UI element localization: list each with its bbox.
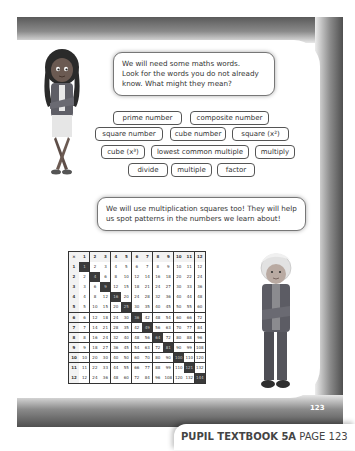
grid-cell: 28 <box>142 292 152 302</box>
page-frame-bottom <box>17 395 343 427</box>
grid-cell: 36 <box>195 282 205 292</box>
grid-cell: 12 <box>79 373 89 383</box>
grid-row-header: 3 <box>69 282 79 292</box>
grid-cell: 99 <box>163 363 173 373</box>
grid-column-header: 12 <box>195 252 205 262</box>
speech-bubble-multiplication-squares: We will use multiplication squares too! … <box>97 197 306 231</box>
grid-cell: 16 <box>153 272 163 282</box>
boy-character-illustration <box>250 250 300 398</box>
grid-cell: 8 <box>79 333 89 343</box>
grid-cell: 24 <box>90 373 100 383</box>
grid-column-header: 3 <box>100 252 110 262</box>
grid-square-number-cell: 1 <box>79 262 89 272</box>
grid-column-header: 10 <box>174 252 184 262</box>
grid-cell: 18 <box>90 343 100 353</box>
grid-row-header: 4 <box>69 292 79 302</box>
grid-cell: 12 <box>195 262 205 272</box>
grid-cell: 48 <box>195 292 205 302</box>
grid-cell: 132 <box>184 373 194 383</box>
grid-square-number-cell: 100 <box>174 353 184 363</box>
grid-cell: 7 <box>79 323 89 333</box>
vocab-chip-prime-number: prime number <box>113 111 182 125</box>
grid-column-header: 4 <box>111 252 121 262</box>
grid-cell: 90 <box>163 353 173 363</box>
grid-cell: 24 <box>132 292 142 302</box>
grid-cell: 88 <box>153 363 163 373</box>
grid-cell: 35 <box>121 323 131 333</box>
vocab-chip-lowest-common-multiple: lowest common multiple <box>151 145 249 159</box>
grid-column-header: 5 <box>121 252 131 262</box>
grid-row-header: 8 <box>69 333 79 343</box>
grid-cell: 3 <box>100 262 110 272</box>
grid-cell: 8 <box>111 272 121 282</box>
grid-cell: 2 <box>79 272 89 282</box>
grid-square-number-cell: 81 <box>163 343 173 353</box>
vocab-chip-factor: factor <box>217 163 255 177</box>
vocab-chip-cube-number: cube number <box>170 127 226 141</box>
grid-square-number-cell: 144 <box>195 373 205 383</box>
grid-cell: 70 <box>174 323 184 333</box>
grid-cell: 33 <box>100 363 110 373</box>
grid-cell: 12 <box>111 282 121 292</box>
grid-cell: 63 <box>142 343 152 353</box>
grid-cell: 16 <box>90 333 100 343</box>
grid-cell: 54 <box>163 313 173 323</box>
grid-cell: 18 <box>163 272 173 282</box>
vocab-chip-composite-number: composite number <box>190 111 269 125</box>
grid-corner-cell: × <box>69 252 79 262</box>
grid-column-header: 11 <box>184 252 194 262</box>
grid-cell: 108 <box>163 373 173 383</box>
grid-square-number-cell: 36 <box>132 313 142 323</box>
grid-cell: 120 <box>174 373 184 383</box>
grid-cell: 45 <box>121 343 131 353</box>
grid-cell: 5 <box>79 302 89 312</box>
grid-cell: 6 <box>79 313 89 323</box>
grid-cell: 10 <box>121 272 131 282</box>
grid-cell: 48 <box>111 373 121 383</box>
grid-cell: 2 <box>90 262 100 272</box>
grid-row-header: 6 <box>69 313 79 323</box>
speech-bubble-maths-words: We will need some maths words. Look for … <box>113 52 275 96</box>
grid-cell: 72 <box>153 343 163 353</box>
vocab-chip-square-number: square number <box>95 127 163 141</box>
grid-row-header: 12 <box>69 373 79 383</box>
grid-cell: 90 <box>174 343 184 353</box>
grid-cell: 44 <box>111 363 121 373</box>
grid-column-header: 9 <box>163 252 173 262</box>
grid-cell: 6 <box>132 262 142 272</box>
bubble-line: us spot patterns in the numbers we learn… <box>106 214 297 224</box>
grid-cell: 28 <box>111 323 121 333</box>
grid-cell: 10 <box>174 262 184 272</box>
grid-cell: 40 <box>111 353 121 363</box>
grid-cell: 6 <box>100 272 110 282</box>
grid-cell: 15 <box>100 302 110 312</box>
grid-cell: 45 <box>163 302 173 312</box>
grid-cell: 88 <box>184 333 194 343</box>
grid-cell: 36 <box>100 373 110 383</box>
grid-cell: 32 <box>153 292 163 302</box>
grid-column-header: 2 <box>90 252 100 262</box>
grid-cell: 27 <box>163 282 173 292</box>
grid-cell: 54 <box>132 343 142 353</box>
vocab-chip-square-x2: square (x²) <box>232 127 289 141</box>
grid-cell: 4 <box>111 262 121 272</box>
grid-cell: 56 <box>153 323 163 333</box>
grid-cell: 72 <box>132 373 142 383</box>
grid-cell: 12 <box>132 272 142 282</box>
grid-cell: 7 <box>142 262 152 272</box>
grid-column-header: 8 <box>153 252 163 262</box>
grid-cell: 24 <box>111 313 121 323</box>
grid-cell: 40 <box>121 333 131 343</box>
grid-cell: 42 <box>142 313 152 323</box>
grid-row-header: 11 <box>69 363 79 373</box>
grid-cell: 72 <box>163 333 173 343</box>
grid-cell: 48 <box>153 313 163 323</box>
grid-cell: 18 <box>100 313 110 323</box>
grid-cell: 10 <box>79 353 89 363</box>
grid-cell: 8 <box>153 262 163 272</box>
bubble-line: Look for the words you do not already <box>122 69 266 79</box>
grid-cell: 77 <box>184 323 194 333</box>
grid-cell: 80 <box>153 353 163 363</box>
page-caption: PUPIL TEXTBOOK 5A PAGE 123 <box>181 431 348 442</box>
grid-cell: 24 <box>153 282 163 292</box>
